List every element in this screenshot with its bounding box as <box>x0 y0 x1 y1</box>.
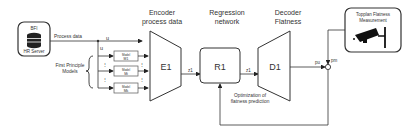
u-label-top: u <box>106 35 109 41</box>
brace <box>86 56 93 88</box>
encoder-title-2: process data <box>142 18 182 26</box>
fpm-label-line2: Models <box>62 69 78 74</box>
process-data-label: Process data <box>54 34 82 39</box>
svg-text:⋮: ⋮ <box>103 62 107 67</box>
model-box-i: Model Mi <box>114 66 138 76</box>
u-label-branch: u <box>100 45 103 51</box>
svg-text:⋮: ⋮ <box>103 77 107 82</box>
regression-title-2: network <box>215 18 240 25</box>
comparator-node <box>325 64 330 69</box>
hr-server-node: BFI HR Server <box>18 22 50 56</box>
model-box-1: Model M1 <box>114 51 138 61</box>
flatness-measurement-node: Topplan Flatness Measurement <box>345 8 401 52</box>
regression-output-label: z1 <box>246 68 251 73</box>
regression-title-1: Regression <box>209 9 245 17</box>
measurement-output-label: pm <box>331 58 338 63</box>
encoder-label: E1 <box>160 62 171 72</box>
regression-label: R1 <box>214 62 226 72</box>
decoder-label: D1 <box>269 62 281 72</box>
encoder-output-label: z1 <box>188 68 193 73</box>
svg-text:⋮: ⋮ <box>140 62 144 67</box>
server-top-label: BFI <box>30 26 37 31</box>
svg-text:Mi: Mi <box>124 72 128 76</box>
svg-text:Measurement: Measurement <box>359 18 387 23</box>
decoder-output-label: pu <box>315 60 321 65</box>
svg-text:M1: M1 <box>124 57 129 61</box>
server-bottom-label: HR Server <box>23 49 45 54</box>
decoder-title-1: Decoder <box>275 9 302 16</box>
encoder-title-1: Encoder <box>149 9 176 16</box>
svg-text:Mk: Mk <box>124 89 129 93</box>
model-box-k: Model Mk <box>114 83 138 93</box>
svg-text:Topplan Flatness: Topplan Flatness <box>356 12 391 17</box>
decoder-title-2: Flatness <box>275 18 302 25</box>
svg-text:⋮: ⋮ <box>140 77 144 82</box>
database-icon <box>27 33 41 48</box>
architecture-diagram: BFI HR Server Process data u u ⋮ ⋮ First… <box>0 0 416 131</box>
fpm-label-line1: First Principle <box>55 63 84 68</box>
feedback-label-1: Optimization of <box>234 93 267 98</box>
feedback-label-2: flatness prediction <box>231 99 270 104</box>
